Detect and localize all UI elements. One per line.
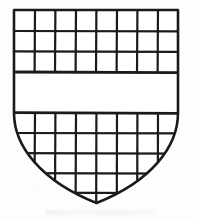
base-row-line — [10, 173, 188, 174]
shield-figure: Heraldic shield with fretty chief and ba… — [0, 0, 199, 220]
fess-top-edge — [12, 72, 180, 73]
base-row-line — [10, 153, 188, 154]
base-col-line — [34, 112, 35, 205]
base-row-line — [10, 133, 188, 134]
base-row-line — [10, 193, 188, 194]
shield-drawing — [0, 0, 199, 220]
